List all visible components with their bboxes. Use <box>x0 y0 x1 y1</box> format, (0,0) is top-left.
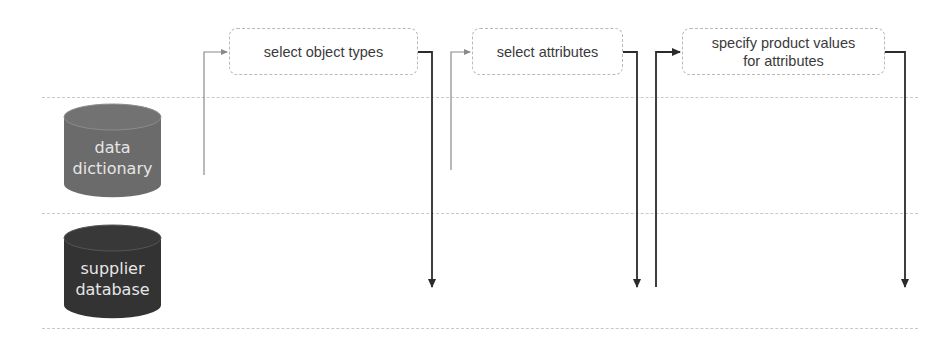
step-label-line2: for attributes <box>743 52 824 70</box>
step-select-attributes: select attributes <box>472 28 623 75</box>
output-arrow-specify-product-values <box>885 52 905 287</box>
step-label: select attributes <box>497 43 599 61</box>
cylinder-label: supplier database <box>63 258 162 300</box>
supplier-database-cylinder: supplier database <box>63 224 162 319</box>
cylinder-label: data dictionary <box>63 137 162 179</box>
label-line1: data <box>63 137 162 158</box>
step-select-object-types: select object types <box>229 28 418 75</box>
input-arrow-select-attributes <box>451 52 470 170</box>
step-specify-product-values: specify product values for attributes <box>682 28 885 75</box>
input-arrow-specify-product-values <box>656 52 680 287</box>
output-arrow-select-object-types <box>418 52 432 287</box>
label-line2: dictionary <box>63 158 162 179</box>
data-dictionary-cylinder: data dictionary <box>63 103 162 198</box>
output-arrow-select-attributes <box>623 52 637 287</box>
step-label: select object types <box>264 43 383 61</box>
input-arrow-select-object-types <box>204 52 227 175</box>
step-label-line1: specify product values <box>712 34 855 52</box>
label-line1: supplier <box>63 258 162 279</box>
label-line2: database <box>63 279 162 300</box>
